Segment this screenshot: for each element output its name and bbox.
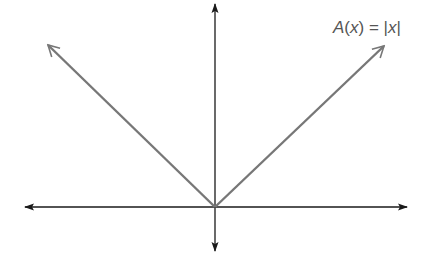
equals-sign: = [364,18,383,37]
curve-left-branch [48,45,215,207]
function-name: A [333,18,344,37]
function-variable: x [350,18,359,37]
absolute-value-curve [48,45,384,207]
curve-right-branch [215,46,384,207]
function-label: A(x) = |x| [333,18,401,38]
graph-canvas [0,0,427,267]
abs-bar-close: | [396,18,400,37]
